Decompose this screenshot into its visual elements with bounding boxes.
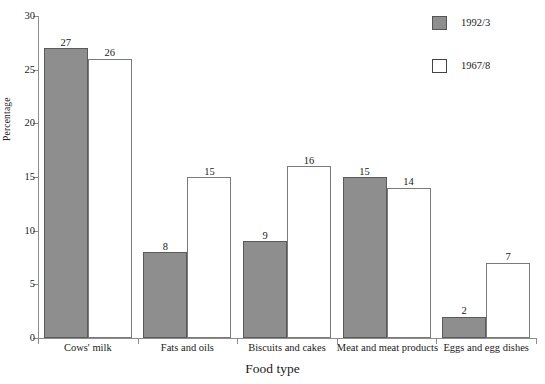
x-axis-label: Food type [0,361,545,377]
bar-value-label: 2 [462,306,467,317]
y-tick-label: 25 [25,64,36,75]
filled-square-icon [432,16,447,30]
bar-value-label: 15 [204,167,215,178]
bar: 15 [187,177,231,338]
x-tick-mark [536,338,537,344]
bar: 14 [387,188,431,338]
bar: 16 [287,166,331,338]
category-label: Cows' milk [38,343,138,354]
category-label: Fats and oils [138,343,238,354]
category-label: Meat and meat products [337,343,437,354]
chart-title [0,0,545,1]
bar: 9 [243,241,287,338]
bar-value-label: 8 [163,242,168,253]
bar-value-label: 9 [262,231,267,242]
bar: 26 [88,59,132,338]
bar-chart: Percentage Food type 051015202530 272681… [0,0,545,384]
bar-value-label: 15 [359,167,370,178]
y-tick-label: 0 [30,333,35,344]
bar: 8 [143,252,187,338]
bar-value-label: 27 [61,38,72,49]
x-axis-line [38,338,536,339]
y-axis-label: Percentage [2,97,12,141]
legend-label: 1992/3 [461,18,490,29]
bar: 2 [442,317,486,338]
y-tick-label: 30 [25,11,36,22]
bar-value-label: 16 [304,156,315,167]
legend-label: 1967/8 [461,61,490,72]
bar: 27 [44,48,88,338]
bar-value-label: 14 [403,177,414,188]
legend-item[interactable]: 1992/3 [432,16,490,30]
y-tick-label: 5 [30,279,35,290]
y-tick-label: 10 [25,225,36,236]
legend-item[interactable]: 1967/8 [432,59,490,73]
bar-value-label: 7 [506,252,511,263]
category-label: Biscuits and cakes [237,343,337,354]
bar: 7 [486,263,530,338]
y-tick-label: 15 [25,172,36,183]
category-label: Eggs and egg dishes [436,343,536,354]
hollow-square-icon [432,59,447,73]
bar-value-label: 26 [105,48,116,59]
bar: 15 [343,177,387,338]
y-tick-label: 20 [25,118,36,129]
